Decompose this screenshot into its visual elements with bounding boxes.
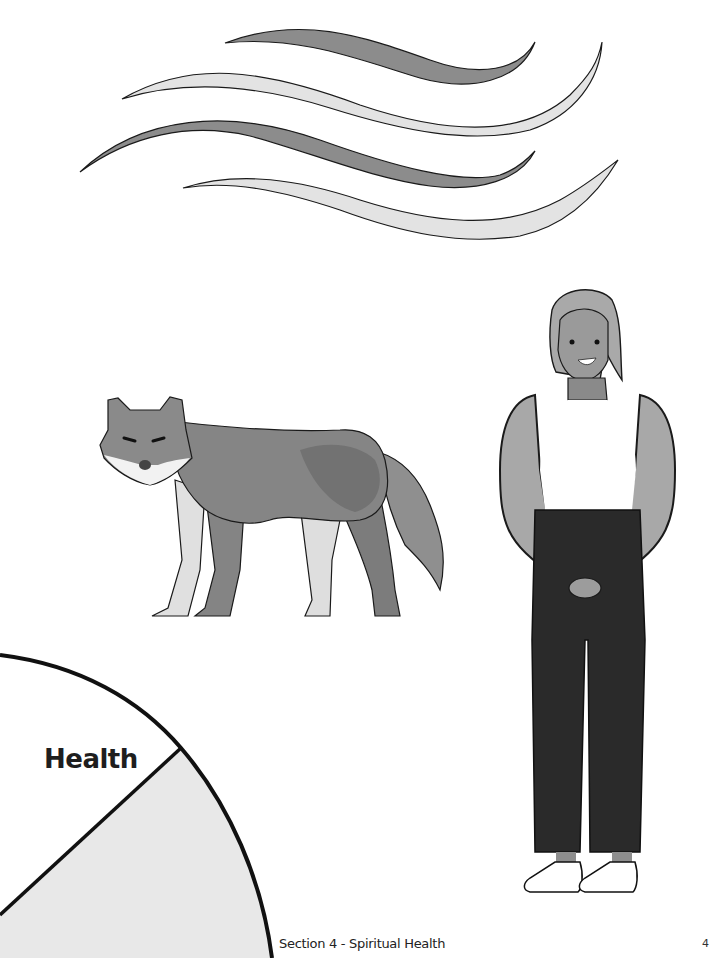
footer-page-number: 4 [702,937,709,950]
health-wheel [0,0,709,958]
wheel-segment-label: Health [44,744,138,774]
footer-section-title: Section 4 - Spiritual Health [279,936,445,951]
